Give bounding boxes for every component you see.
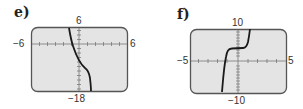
chart-panel-e: e) 6 −6 6 −18 bbox=[0, 0, 150, 109]
plot-area-f bbox=[150, 0, 303, 109]
plot-area-e bbox=[0, 0, 150, 109]
chart-panel-f: f) 10 −5 5 −10 bbox=[150, 0, 303, 109]
